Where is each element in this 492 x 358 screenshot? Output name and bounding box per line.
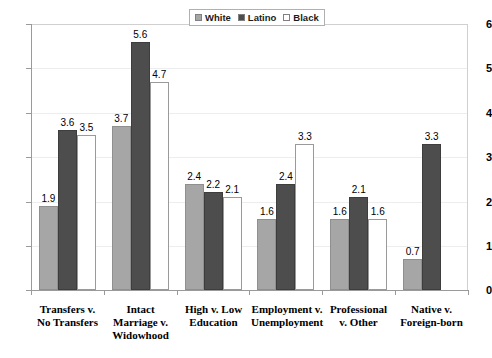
bar-value-black-2: 2.1 bbox=[217, 184, 248, 195]
bar-black-0 bbox=[77, 135, 96, 290]
y-tick-label-4: 4 bbox=[468, 108, 492, 119]
bar-value-black-0: 3.5 bbox=[71, 122, 102, 133]
bar-latino-0 bbox=[58, 130, 77, 290]
bar-latino-2 bbox=[204, 192, 223, 290]
bar-white-1 bbox=[112, 126, 131, 290]
legend-swatch-black bbox=[283, 14, 290, 21]
y-tick-label-0: 0 bbox=[468, 285, 492, 296]
bar-value-latino-4: 2.1 bbox=[343, 184, 374, 195]
bar-value-latino-3: 2.4 bbox=[270, 171, 301, 182]
bar-black-2 bbox=[223, 197, 242, 290]
bar-chart: White Latino Black 6 5 4 3 2 1 0 1.93.63 bbox=[0, 0, 492, 358]
bar-black-1 bbox=[150, 82, 169, 290]
bar-black-3 bbox=[295, 144, 314, 290]
legend-label-black: Black bbox=[293, 13, 318, 23]
bar-value-white-3: 1.6 bbox=[251, 206, 282, 217]
legend-swatch-white bbox=[195, 14, 202, 21]
bar-white-4 bbox=[330, 219, 349, 290]
bar-value-white-5: 0.7 bbox=[397, 246, 428, 257]
legend-swatch-latino bbox=[238, 14, 245, 21]
legend-entry-black: Black bbox=[283, 13, 318, 23]
bar-white-5 bbox=[403, 259, 422, 290]
category-label-5: Native v. Foreign-born bbox=[389, 303, 474, 329]
bar-value-white-4: 1.6 bbox=[324, 206, 355, 217]
category-separator-6 bbox=[468, 290, 469, 295]
bar-white-0 bbox=[39, 206, 58, 290]
legend-label-latino: Latino bbox=[248, 13, 277, 23]
y-tick-label-1: 1 bbox=[468, 241, 492, 252]
y-tick-label-3: 3 bbox=[468, 152, 492, 163]
y-tick-label-2: 2 bbox=[468, 197, 492, 208]
legend-entry-latino: Latino bbox=[238, 13, 277, 23]
category-separator-5 bbox=[395, 290, 396, 295]
chart-legend: White Latino Black bbox=[189, 9, 325, 26]
y-tick-label-5: 5 bbox=[468, 63, 492, 74]
legend-label-white: White bbox=[205, 13, 231, 23]
category-separator-3 bbox=[249, 290, 250, 295]
bar-value-black-1: 4.7 bbox=[144, 69, 175, 80]
y-tick-label-6: 6 bbox=[468, 19, 492, 30]
bar-white-2 bbox=[185, 184, 204, 290]
legend-entry-white: White bbox=[195, 13, 231, 23]
bar-latino-5 bbox=[422, 144, 441, 290]
bar-value-white-1: 3.7 bbox=[106, 113, 137, 124]
bar-value-black-4: 1.6 bbox=[362, 206, 393, 217]
y-axis-line bbox=[31, 24, 32, 291]
bar-value-white-0: 1.9 bbox=[33, 193, 64, 204]
bar-white-3 bbox=[257, 219, 276, 290]
bar-black-4 bbox=[368, 219, 387, 290]
bar-latino-3 bbox=[276, 184, 295, 290]
bar-value-black-3: 3.3 bbox=[289, 131, 320, 142]
bar-value-latino-5: 3.3 bbox=[416, 131, 447, 142]
bar-value-latino-1: 5.6 bbox=[125, 29, 156, 40]
category-separator-1 bbox=[104, 290, 105, 295]
category-separator-4 bbox=[322, 290, 323, 295]
category-separator-0 bbox=[31, 290, 32, 295]
category-separator-2 bbox=[177, 290, 178, 295]
